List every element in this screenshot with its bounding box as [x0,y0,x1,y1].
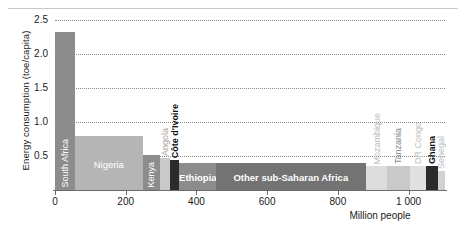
bar-label: South Africa [60,139,69,188]
x-tick-label: 0 [32,196,78,207]
bar-label: Kenya [147,162,156,188]
bar-label: Tanzania [394,128,403,164]
gridline [55,54,445,55]
x-tick-label: 1 000 [386,196,432,207]
y-tick-label: 1.0 [22,116,48,127]
x-axis-title: Million people [320,210,440,221]
bar-label: Other sub-Saharan Africa [216,173,366,183]
bar-senegal[interactable]: Senegal [438,171,445,190]
top-divider [8,8,458,9]
bar-mozambique[interactable]: Mozambique [366,166,388,190]
gridline [55,122,445,123]
x-tick-mark [126,190,127,195]
x-tick-mark [409,190,410,195]
bar-south-africa[interactable]: South Africa [55,32,75,190]
y-tick-label: 2.0 [22,48,48,59]
y-tick-label: 1.5 [22,82,48,93]
energy-consumption-chart: Energy consumption (toe/capita) 0.51.01.… [0,0,466,236]
bar-dr-congo[interactable]: DR Congo [410,166,426,190]
y-axis-title: Energy consumption (toe/capita) [20,6,31,196]
bar-label: Côte d'Ivoire [170,104,179,158]
gridline [55,20,445,21]
bar-kenya[interactable]: Kenya [143,155,160,190]
bar-nigeria[interactable]: Nigeria [75,136,143,190]
x-tick-label: 800 [315,196,361,207]
x-tick-label: 600 [244,196,290,207]
bar-label: Mozambique [372,113,381,165]
x-axis-line [53,190,447,191]
bar-ethiopia[interactable]: Ethiopia [179,163,216,190]
bar-tanzania[interactable]: Tanzania [387,166,409,190]
bar-label: Angola [160,128,169,156]
bar-angola[interactable]: Angola [160,158,171,190]
gridline [55,88,445,89]
bar-label: Nigeria [75,160,143,170]
y-tick-label: 2.5 [22,14,48,25]
bar-ghana[interactable]: Ghana [426,166,438,190]
y-tick-label: 0.5 [22,150,48,161]
x-tick-mark [55,190,56,195]
bar-label: DR Congo [413,122,422,164]
bar-label: Ethiopia [179,173,216,183]
bar-c-te-d-ivoire[interactable]: Côte d'Ivoire [170,160,179,190]
x-tick-mark [196,190,197,195]
x-tick-label: 200 [103,196,149,207]
x-tick-label: 400 [173,196,219,207]
bar-other-sub-saharan-africa[interactable]: Other sub-Saharan Africa [216,163,366,190]
x-tick-mark [338,190,339,195]
bar-label: Senegal [437,136,446,169]
plot-area: South AfricaNigeriaKenyaAngolaCôte d'Ivo… [55,20,445,190]
x-tick-mark [267,190,268,195]
